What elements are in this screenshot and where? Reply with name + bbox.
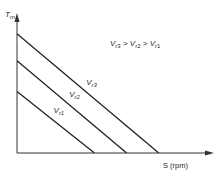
x-axis-label: S (rpm) bbox=[163, 161, 189, 170]
series-line-vr3 bbox=[17, 34, 159, 153]
y-axis-label-sub: m bbox=[10, 14, 15, 20]
series-label-vr2: Vr2 bbox=[69, 90, 80, 100]
series-line-vr2 bbox=[17, 61, 127, 153]
y-axis-arrow-icon bbox=[15, 13, 20, 22]
series-label-vr1: Vr1 bbox=[54, 106, 65, 116]
series-group: Vr1Vr2Vr3 bbox=[17, 34, 159, 153]
torque-speed-diagram: Tm S (rpm) Vr1Vr2Vr3 Vr3 > Vr2 > Vr1 bbox=[0, 0, 222, 174]
x-axis-arrow-icon bbox=[205, 151, 214, 156]
series-line-vr1 bbox=[17, 92, 94, 154]
series-label-vr3: Vr3 bbox=[86, 78, 97, 88]
y-axis-label: Tm bbox=[5, 10, 15, 20]
ordering-annotation: Vr3 > Vr2 > Vr1 bbox=[110, 39, 161, 49]
